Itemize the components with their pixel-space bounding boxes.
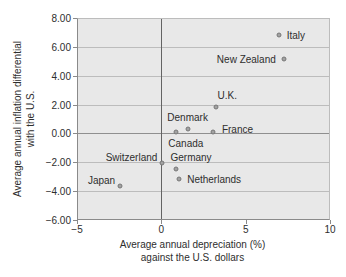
point-label-new-zealand: New Zealand [217,54,276,65]
x-axis-title-line1: Average annual depreciation (%) [50,238,335,251]
gridline-y-4 [78,191,329,192]
point-label-switzerland: Switzerland [106,152,158,163]
point-label-france: France [222,123,253,134]
y-tick-label: −2.00 [29,158,71,168]
y-axis-tick [73,162,77,163]
y-tick-label: 0.00 [29,129,71,139]
point-label-germany: Germany [170,152,211,163]
x-axis-title: Average annual depreciation (%) against … [50,238,335,264]
y-axis-tick [73,191,77,192]
x-axis-title-line2: against the U.S. dollars [50,251,335,264]
gridline-y2 [78,105,329,106]
y-tick-label: −4.00 [29,187,71,197]
gridline-y6 [78,47,329,48]
ppp-scatter-chart: Average annual inflation differential wi… [0,0,346,277]
data-point-italy [276,32,281,37]
x-tick-label: 5 [243,225,249,235]
data-point-denmark [185,126,190,131]
data-point-japan [118,184,123,189]
y-axis-tick [73,105,77,106]
point-label-japan: Japan [88,175,115,186]
y-axis-tick [73,47,77,48]
point-label-u-k-: U.K. [217,90,236,101]
data-point-netherlands [177,177,182,182]
data-point-france [210,129,215,134]
y-axis-tick [73,18,77,19]
y-axis-title-line1: Average annual inflation differential [11,18,24,220]
x-tick-label: 0 [159,225,165,235]
point-label-denmark: Denmark [167,112,208,123]
point-label-italy: Italy [287,29,305,40]
x-tick-label: −5 [71,225,82,235]
plot-area: 8.006.004.002.000.00−2.00−4.00−6.00−5051… [77,18,330,220]
y-axis-tick [73,133,77,134]
data-point-u-k- [214,105,219,110]
y-axis-tick [73,76,77,77]
y-tick-label: 6.00 [29,43,71,53]
data-point-switzerland [160,161,165,166]
zero-gridline-vertical [161,19,162,219]
x-tick-label: 10 [324,225,335,235]
gridline-y4 [78,76,329,77]
data-point-germany [173,167,178,172]
zero-gridline-horizontal [78,133,329,134]
y-tick-label: 8.00 [29,14,71,24]
data-point-new-zealand [281,57,286,62]
data-point-canada [173,129,178,134]
y-tick-label: −6.00 [29,216,71,226]
y-tick-label: 4.00 [29,72,71,82]
point-label-canada: Canada [168,138,203,149]
point-label-netherlands: Netherlands [187,174,241,185]
y-tick-label: 2.00 [29,101,71,111]
